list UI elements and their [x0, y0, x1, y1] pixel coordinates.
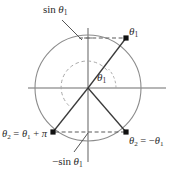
leader-line-sin-bottom — [74, 133, 88, 152]
equals-sign-pi: = — [11, 128, 22, 139]
radius-theta1 — [88, 38, 126, 88]
theta1-angle-arc — [109, 69, 117, 88]
label-theta1-angle: θ1 — [97, 72, 106, 85]
theta-subscript-angle: 1 — [102, 76, 106, 85]
theta-subscript-sin-top: 1 — [64, 8, 68, 17]
label-theta2-plus-pi: θ2 = θ1 + π — [2, 129, 47, 141]
theta1-subscript-neg: 1 — [160, 140, 164, 148]
point-marker-minus-theta1 — [123, 129, 128, 134]
theta-subscript-point: 1 — [134, 30, 138, 39]
plus-sign-pi: + — [31, 128, 42, 139]
radius-theta1-plus-pi — [53, 88, 88, 132]
theta-subscript-sin-bottom: 1 — [79, 160, 83, 169]
sin-prefix-top: sin — [43, 3, 56, 15]
point-marker-theta1-plus-pi — [50, 129, 55, 134]
radius-minus-theta1 — [88, 88, 126, 132]
point-marker-theta1 — [123, 35, 128, 40]
label-sin-theta1-top: sinθ1 — [43, 4, 67, 17]
label-minus-sin-theta1-bottom: −sinθ1 — [52, 156, 83, 169]
trig-unit-circle-figure: sinθ1 θ1 θ1 θ2 = θ1 + π θ2 = −θ1 −sinθ1 — [0, 0, 173, 173]
sin-prefix-bottom: −sin — [52, 155, 71, 167]
pi-symbol: π — [42, 128, 47, 139]
equals-sign-neg: = — [138, 135, 149, 146]
label-theta1-point: θ1 — [129, 26, 138, 39]
label-theta2-negative: θ2 = −θ1 — [129, 136, 164, 148]
